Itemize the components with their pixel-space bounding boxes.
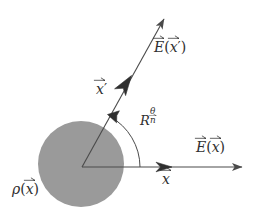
label-position-x: x	[162, 172, 170, 186]
close-paren: )	[181, 39, 186, 55]
symbol-x: x	[162, 172, 170, 186]
vector-n: n	[150, 116, 156, 125]
label-charge-density: ρ( x )	[12, 182, 39, 196]
label-field-at-x-prime: E ( x ′)	[154, 40, 186, 54]
figure-canvas: E ( x ′) x ′ R θ n	[0, 0, 262, 214]
symbol-x: x	[170, 40, 178, 54]
vector-x-prime: x	[96, 82, 104, 96]
charge-disk	[38, 121, 124, 207]
symbol-x: x	[96, 82, 104, 96]
vector-x-arg: x	[212, 140, 220, 154]
vector-x-prime-arg: x	[170, 40, 178, 54]
rotation-indices: θ n	[150, 112, 162, 125]
vector-E: E	[196, 140, 206, 154]
symbol-x: x	[26, 182, 34, 196]
close-paren: )	[34, 181, 39, 197]
vector-diagram-svg	[0, 0, 262, 214]
label-field-at-x: E ( x )	[196, 140, 225, 154]
symbol-n: n	[150, 116, 156, 125]
close-paren: )	[220, 139, 225, 155]
vector-x-arg: x	[26, 182, 34, 196]
vector-x: x	[162, 172, 170, 186]
label-position-x-prime: x ′	[96, 82, 107, 96]
symbol-rho: ρ	[12, 181, 20, 197]
symbol-E: E	[196, 140, 206, 154]
diagonal-axis-line	[82, 19, 164, 167]
symbol-E: E	[154, 40, 164, 54]
symbol-x: x	[212, 140, 220, 154]
vector-E-prime: E	[154, 40, 164, 54]
prime-mark: ′	[104, 81, 107, 97]
label-rotation-operator: R θ n	[140, 112, 162, 127]
symbol-R: R	[140, 113, 150, 128]
rotation-axis-subscript: n	[150, 116, 156, 125]
